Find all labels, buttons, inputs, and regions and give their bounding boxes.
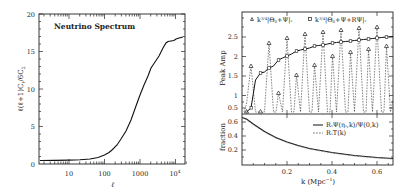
- right-x-axis-label: k (Mpc−1): [301, 177, 335, 186]
- legend-solid-label: R*Ψ(η*,k)/Ψ(0,k): [326, 121, 379, 129]
- neutrino-spectrum-curve: [40, 37, 183, 161]
- left-y-ticks: [39, 14, 185, 157]
- upper-legend: k3/4|Θ0+Ψ|* k3/4|Θ0+Ψ+RΨ|*: [251, 16, 367, 24]
- square-markers: [250, 36, 388, 109]
- right-xtick-0.4: 0.4: [327, 168, 337, 176]
- square-marker-icon: [309, 18, 312, 21]
- left-xtick-1000: 1000: [132, 170, 149, 178]
- upper-ytick-2.5: 2.5: [228, 33, 238, 41]
- triangle-marker-icon: [251, 18, 254, 21]
- upper-y-axis-label: Peak Amp: [219, 50, 227, 86]
- right-chart: 2.5 2 1.5 1 0.5 0.6 0.4 0.2 0.2 0.4 0.6 …: [219, 12, 393, 186]
- left-ytick-5: 5: [31, 123, 35, 131]
- upper-ytick-1.5: 1.5: [228, 72, 238, 80]
- left-chart-title: Neutrino Spectrum: [54, 22, 135, 31]
- lower-y-axis-label: fraction: [219, 123, 227, 151]
- left-x-axis-label: ℓ: [111, 181, 115, 189]
- left-y-axis-label: ℓ(ℓ+1)Cℓ/6C2: [17, 66, 26, 111]
- left-ytick-20: 20: [27, 11, 35, 19]
- right-xtick-0.2: 0.2: [282, 168, 292, 176]
- legend-dashed-label: R*T(k): [326, 129, 347, 137]
- legend-square-label: k3/4|Θ0+Ψ+RΨ|*: [315, 16, 366, 24]
- upper-ytick-0.5: 0.5: [228, 104, 238, 112]
- left-xtick-10: 10: [65, 170, 73, 178]
- left-chart: 0 5 10 15 20 10 100 1000 104 ℓ ℓ(ℓ+1)Cℓ/…: [17, 11, 186, 190]
- right-xtick-0.6: 0.6: [372, 168, 382, 176]
- lower-legend: R*Ψ(η*,k)/Ψ(0,k) R*T(k): [313, 121, 379, 137]
- triangle-markers: [245, 25, 389, 113]
- figure: 0 5 10 15 20 10 100 1000 104 ℓ ℓ(ℓ+1)Cℓ/…: [0, 0, 407, 196]
- triangle-series-dashed-line: [244, 27, 393, 112]
- left-ytick-15: 15: [27, 48, 35, 56]
- left-ytick-10: 10: [27, 86, 35, 94]
- upper-ytick-2: 2: [234, 53, 238, 61]
- left-xtick-100: 100: [98, 170, 110, 178]
- lower-ytick-0.4: 0.4: [228, 132, 238, 140]
- left-plot-frame: [39, 14, 185, 164]
- left-xtick-10000: 104: [169, 169, 180, 178]
- lower-ytick-0.2: 0.2: [228, 146, 238, 154]
- upper-y-ticks: [242, 18, 393, 108]
- left-ytick-0: 0: [31, 161, 35, 169]
- left-x-ticks: [44, 14, 186, 164]
- right-plot-frame: [242, 12, 393, 165]
- right-x-ticks: [253, 12, 388, 165]
- upper-ytick-1: 1: [234, 92, 238, 100]
- lower-ytick-0.6: 0.6: [228, 118, 238, 126]
- legend-triangle-label: k3/4|Θ0+Ψ|*: [257, 16, 292, 24]
